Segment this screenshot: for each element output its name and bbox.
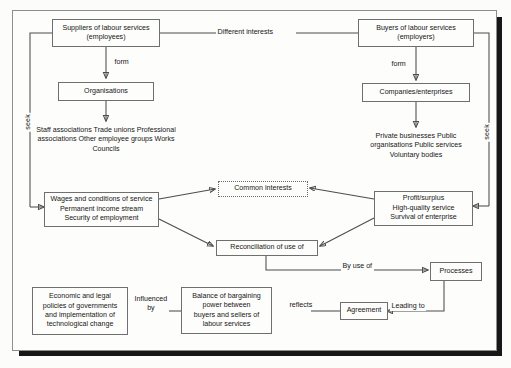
edge-label-leading-to: Leading to: [390, 302, 426, 311]
companies-label: Companies/enterprises: [380, 88, 453, 97]
employee-goal-3: Security of employment: [51, 214, 153, 223]
edge-label-different-interests: Different interests: [216, 28, 274, 37]
employer-org-item-3: Public services: [414, 141, 461, 149]
processes-label: Processes: [439, 267, 472, 276]
edge-label-seek-right: seek: [483, 123, 492, 142]
edge-label-form-left: form: [113, 58, 130, 67]
buyers-box: Buyers of labour services (employers): [358, 19, 474, 47]
balance-line-1: Balance of bargaining: [192, 292, 261, 301]
employer-goal-2: High-quality service: [390, 204, 457, 213]
edge-label-form-right: form: [390, 60, 407, 69]
balance-of-bargaining-power-box: Balance of bargaining power between buye…: [181, 287, 272, 334]
reconciliation-label: Reconciliation of use of: [230, 243, 303, 252]
suppliers-box: Suppliers of labour services (employees): [52, 19, 160, 47]
employer-goals-box: Profit/surplus High-quality service Surv…: [374, 191, 473, 226]
companies-box: Companies/enterprises: [362, 83, 470, 102]
employee-org-item-2: Trade unions: [94, 126, 135, 134]
edge-label-by-use-of: By use of: [341, 262, 374, 271]
reconciliation-box: Reconciliation of use of: [216, 240, 318, 256]
employee-goal-2: Permanent income stream: [51, 205, 153, 214]
employee-goal-1: Wages and conditions of service: [51, 195, 153, 204]
organisations-box: Organisations: [58, 82, 154, 101]
balance-line-3: buyers and sellers of: [192, 311, 261, 320]
policies-line-3: and implementation of: [43, 311, 118, 320]
common-interests-box: Common interests: [218, 181, 308, 197]
employee-goals-box: Wages and conditions of service Permanen…: [44, 192, 159, 227]
buyers-line-2: (employers): [376, 33, 456, 42]
employer-org-item-1: Private businesses: [376, 132, 436, 140]
balance-line-2: power between: [192, 301, 261, 310]
employer-organisation-list: Private businesses Public organisations …: [356, 132, 476, 160]
common-interests-label: Common interests: [234, 184, 292, 193]
policies-line-2: policies of governments: [43, 302, 118, 311]
figure-canvas: Suppliers of labour services (employees)…: [0, 0, 511, 368]
employee-org-item-4: Other employee groups: [78, 135, 152, 143]
policies-line-1: Economic and legal: [43, 292, 118, 301]
processes-box: Processes: [430, 262, 482, 281]
agreement-box: Agreement: [340, 302, 388, 320]
employer-org-item-4: Voluntary bodies: [390, 151, 442, 159]
edge-label-reflects: reflects: [288, 301, 314, 310]
agreement-label: Agreement: [347, 306, 382, 315]
employer-goal-1: Profit/surplus: [390, 194, 457, 203]
edge-label-influenced-by: Influenced by: [133, 295, 169, 313]
suppliers-line-1: Suppliers of labour services: [62, 24, 149, 33]
economic-legal-policies-box: Economic and legal policies of governmen…: [32, 287, 128, 335]
employee-organisation-list: Staff associations Trade unions Professi…: [36, 126, 176, 154]
balance-line-4: labour services: [192, 320, 261, 329]
edge-label-seek-left: seek: [24, 113, 33, 132]
influenced-by-line-2: by: [135, 304, 168, 313]
buyers-line-1: Buyers of labour services: [376, 24, 456, 33]
policies-line-4: technological change: [43, 320, 118, 329]
employee-org-item-1: Staff associations: [36, 126, 91, 134]
suppliers-line-2: (employees): [62, 33, 149, 42]
employer-goal-3: Survival of enterprise: [390, 213, 457, 222]
organisations-label: Organisations: [84, 87, 128, 96]
influenced-by-line-1: Influenced: [135, 295, 168, 303]
